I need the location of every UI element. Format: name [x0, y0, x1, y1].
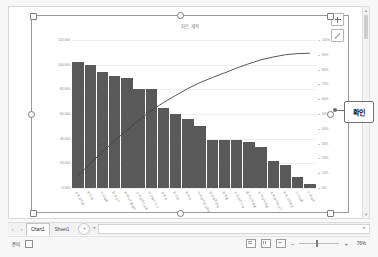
category-label-8: 자동차	[160, 191, 168, 201]
category-tick-14: 건설광산기계	[231, 190, 243, 214]
percent-axis-label-8: 30%	[322, 142, 328, 146]
zoom-slider-thumb[interactable]	[316, 240, 318, 247]
percent-axis-tick-2	[318, 55, 320, 56]
percent-axis-tick-4	[318, 84, 320, 85]
zoom-slider[interactable]	[299, 243, 339, 244]
category-tick-13: 화장품	[218, 190, 230, 214]
resize-handle-s[interactable]	[177, 210, 184, 217]
percent-axis-tick-8	[318, 144, 320, 145]
status-ready-label: 준비	[12, 241, 20, 247]
category-tick-20: 인쇄회로	[304, 190, 316, 214]
percent-axis-tick-10	[318, 173, 320, 174]
percent-axis-label-1: 100%	[322, 38, 330, 42]
value-axis-label-2: 100,000	[58, 63, 70, 67]
category-label-10: 컴퓨터	[184, 191, 192, 201]
category-tick-11: 석유화학중간원료	[194, 190, 206, 214]
percent-axis-tick-1	[318, 40, 320, 41]
percent-axis-label-5: 60%	[322, 97, 328, 101]
resize-handle-nw[interactable]	[30, 13, 37, 20]
percent-axis-label-10: 10%	[322, 171, 328, 175]
chart-title[interactable]: 차트 제목	[32, 23, 348, 29]
percent-axis-label-3: 80%	[322, 68, 328, 72]
category-tick-16: 농약및의약품	[255, 190, 267, 214]
category-label-2: 반도체	[87, 191, 95, 201]
percent-axis-label-4: 70%	[322, 82, 328, 86]
category-label-4: 합성수지	[111, 191, 120, 203]
percent-axis-tick-9	[318, 158, 320, 159]
tab-nav-prev-icon[interactable]: ‹	[8, 226, 17, 232]
category-tick-1: 자동차부품	[72, 190, 84, 214]
normal-view-button[interactable]	[246, 239, 256, 248]
category-tick-3: 석유제품	[96, 190, 108, 214]
confirm-callout[interactable]: 확인	[344, 101, 374, 123]
accessibility-icon[interactable]	[25, 240, 33, 248]
category-tick-7: 무선통신기기	[145, 190, 157, 214]
page-break-view-button[interactable]	[276, 239, 286, 248]
category-label-19: 기구부품	[294, 191, 303, 203]
category-tick-5: 평판디스플레이	[121, 190, 133, 214]
page-layout-view-button[interactable]	[261, 239, 271, 248]
add-sheet-button[interactable]: +	[78, 223, 90, 235]
resize-handle-e[interactable]	[327, 111, 334, 118]
sheet-tab-bar: ‹ › Chart1 Sheet1 + ◄ ►	[8, 222, 370, 235]
percent-axis-label-7: 40%	[322, 127, 328, 131]
tab-nav-next-icon[interactable]: ›	[17, 226, 26, 232]
value-axis-label-6: 20,000	[60, 161, 70, 165]
value-axis-label-3: 80,000	[60, 87, 70, 91]
category-tick-6: 선박해양구조물	[133, 190, 145, 214]
zoom-out-button[interactable]: −	[291, 241, 295, 247]
worksheet-canvas[interactable]: 차트 제목 120,000100,00080,00060,00040,00020…	[8, 6, 370, 219]
category-axis[interactable]: 자동차부품반도체석유제품합성수지평판디스플레이선박해양구조물무선통신기기자동차철…	[72, 190, 316, 214]
category-tick-15: 플라스틱제품	[243, 190, 255, 214]
category-tick-8: 자동차	[157, 190, 169, 214]
category-tick-2: 반도체	[84, 190, 96, 214]
cumulative-line-series[interactable]	[72, 40, 316, 188]
value-axis-label-4: 60,000	[60, 112, 70, 116]
zoom-in-button[interactable]: +	[344, 241, 348, 247]
hscroll-left-arrow-icon[interactable]: ◄	[90, 225, 97, 231]
excel-window: 차트 제목 120,000100,00080,00060,00040,00020…	[0, 0, 378, 257]
horizontal-scrollbar[interactable]: ◄ ►	[98, 224, 370, 234]
resize-handle-n[interactable]	[177, 12, 184, 19]
value-axis-label-7: 0.000	[62, 186, 70, 190]
status-right-group: − + 76%	[246, 239, 366, 248]
category-label-3: 석유제품	[99, 191, 108, 203]
vertical-scroll-thumb[interactable]	[364, 15, 368, 39]
chart-styles-brush-icon[interactable]	[331, 29, 344, 42]
value-axis-primary[interactable]: 120,000100,00080,00060,00040,00020,0000.…	[42, 40, 71, 188]
percent-axis-label-11: 0%	[322, 186, 327, 190]
category-tick-19: 기구부품	[292, 190, 304, 214]
category-tick-17: 계측제어분석기	[267, 190, 279, 214]
percent-axis-label-2: 90%	[322, 53, 328, 57]
chart-object[interactable]: 차트 제목 120,000100,00080,00060,00040,00020…	[31, 15, 349, 213]
category-label-20: 인쇄회로	[306, 191, 315, 203]
percent-axis-tick-11	[318, 188, 320, 189]
value-axis-label-5: 40,000	[60, 137, 70, 141]
resize-handle-sw[interactable]	[30, 210, 37, 217]
resize-handle-se[interactable]	[327, 210, 334, 217]
chart-area[interactable]: 차트 제목 120,000100,00080,00060,00040,00020…	[32, 16, 348, 212]
gridline-7	[72, 188, 316, 189]
sheet-tab-chart1[interactable]: Chart1	[26, 223, 50, 236]
percent-axis-label-9: 20%	[322, 156, 328, 160]
category-label-9: 철강판	[172, 191, 180, 201]
resize-handle-w[interactable]	[28, 111, 35, 118]
cumulative-line-path[interactable]	[78, 53, 310, 175]
category-label-13: 화장품	[221, 191, 229, 201]
percent-axis-tick-6	[318, 114, 320, 115]
category-tick-18: 원동기및펌프	[279, 190, 291, 214]
percent-axis-tick-5	[318, 99, 320, 100]
category-tick-10: 컴퓨터	[182, 190, 194, 214]
zoom-level-label[interactable]: 76%	[353, 241, 366, 246]
category-tick-4: 합성수지	[109, 190, 121, 214]
sheet-tab-sheet1[interactable]: Sheet1	[50, 223, 75, 236]
percent-axis-tick-7	[318, 129, 320, 130]
scroll-up-arrow-icon[interactable]: ▲	[363, 7, 369, 14]
status-bar: 준비 − + 76%	[8, 236, 370, 250]
status-left-group: 준비	[12, 240, 33, 248]
hscroll-right-arrow-icon[interactable]: ►	[361, 225, 368, 231]
plot-area[interactable]	[72, 40, 316, 188]
resize-handle-ne[interactable]	[327, 13, 334, 20]
scroll-down-arrow-icon[interactable]: ▼	[363, 211, 369, 218]
value-axis-label-1: 120,000	[58, 38, 70, 42]
